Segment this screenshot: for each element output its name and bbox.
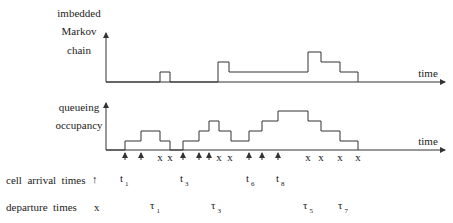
time-annotation: τ7: [338, 199, 348, 215]
departure-time-annotations: τ1τ3τ5τ7: [150, 199, 348, 215]
arrival-markers: [125, 153, 278, 160]
departure-x-icon: x: [157, 151, 163, 163]
timing-diagram: imbedded Markov chain time queueing occu…: [0, 0, 453, 223]
top-label-line-3: chain: [67, 44, 91, 56]
departure-x-icon: x: [167, 151, 173, 163]
departure-x-icon: x: [227, 151, 233, 163]
queue-occupancy-step-line: [106, 111, 358, 150]
departure-symbol-icon: x: [94, 201, 100, 213]
time-annotation: τ1: [150, 199, 160, 215]
time-annotation: τ3: [211, 199, 221, 215]
departure-x-icon: x: [305, 151, 311, 163]
time-annotation: t3: [180, 172, 189, 188]
arrival-time-annotations: t1t3t6t8: [120, 172, 285, 188]
time-annotation: t8: [276, 172, 285, 188]
bottom-label-line-1: queueing: [59, 101, 100, 113]
top-label-line-1: imbedded: [57, 7, 101, 19]
departure-x-icon: x: [337, 151, 343, 163]
arrival-legend-label: cell arrival times: [6, 174, 85, 186]
arrival-symbol-icon: ↑: [92, 173, 98, 185]
departure-x-icon: x: [318, 151, 324, 163]
markov-chain-step-line: [106, 52, 358, 82]
time-annotation: t6: [246, 172, 255, 188]
bottom-label-line-2: occupancy: [55, 119, 103, 131]
departure-legend-label: departure times: [6, 201, 77, 213]
departure-x-icon: x: [216, 151, 222, 163]
departure-markers: xxxxxxxx: [157, 151, 361, 163]
time-annotation: τ5: [303, 199, 313, 215]
bottom-x-axis-label: time: [418, 135, 438, 147]
departure-x-icon: x: [355, 151, 361, 163]
top-x-axis-label: time: [418, 67, 438, 79]
top-label-line-2: Markov: [62, 25, 97, 37]
time-annotation: t1: [120, 172, 129, 188]
